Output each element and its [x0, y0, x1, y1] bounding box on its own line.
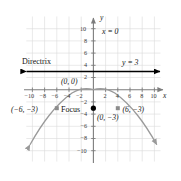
right-point-label: (6, −3): [123, 106, 145, 114]
y-tick-label-2: 2: [84, 74, 87, 80]
vertex-point-label: (0, 0): [61, 78, 77, 86]
left-point-label: (−6, −3): [11, 106, 38, 114]
x-tick-label-10: 10: [150, 93, 156, 99]
y-tick-label-neg4: −4: [81, 111, 88, 117]
x-tick-label-8: 8: [140, 93, 143, 99]
point-marker-left: [55, 106, 59, 110]
y-tick-label-6: 6: [84, 50, 87, 56]
y-tick-label-neg8: −8: [81, 135, 88, 141]
focus-point-label: (0, −3): [97, 114, 119, 122]
axis-of-symmetry-label: x = 0: [102, 28, 119, 36]
y-tick-label-8: 8: [84, 38, 87, 44]
x-tick-label-neg8: −8: [40, 93, 47, 99]
x-axis-label: x: [163, 92, 166, 100]
x-tick-label-neg6: −6: [52, 93, 59, 99]
y-tick-label-neg6: −6: [81, 123, 88, 129]
y-tick-label-neg10: −10: [77, 148, 87, 154]
x-tick-label-2: 2: [104, 93, 107, 99]
y-tick-label-4: 4: [84, 62, 87, 68]
y-tick-label-10: 10: [80, 26, 86, 32]
directrix-label: Directrix: [22, 58, 51, 66]
parabola-graph-figure: y x 10 8 6 4 2 −2 −4 −6 −8 −10 −10 −8 −6…: [0, 0, 181, 181]
x-tick-label-neg2: −2: [76, 93, 83, 99]
x-tick-label-6: 6: [128, 93, 131, 99]
focus-label: Focus: [61, 106, 80, 114]
x-tick-label-neg10: −10: [25, 93, 35, 99]
focus-dot: [91, 106, 96, 111]
x-tick-label-4: 4: [116, 93, 119, 99]
plot-canvas: [0, 0, 181, 181]
point-marker-right: [116, 106, 120, 110]
y-axis-label: y: [100, 14, 103, 22]
directrix-equation-label: y = 3: [122, 59, 139, 67]
x-tick-label-neg4: −4: [64, 93, 71, 99]
y-tick-label-neg2: −2: [81, 99, 88, 105]
